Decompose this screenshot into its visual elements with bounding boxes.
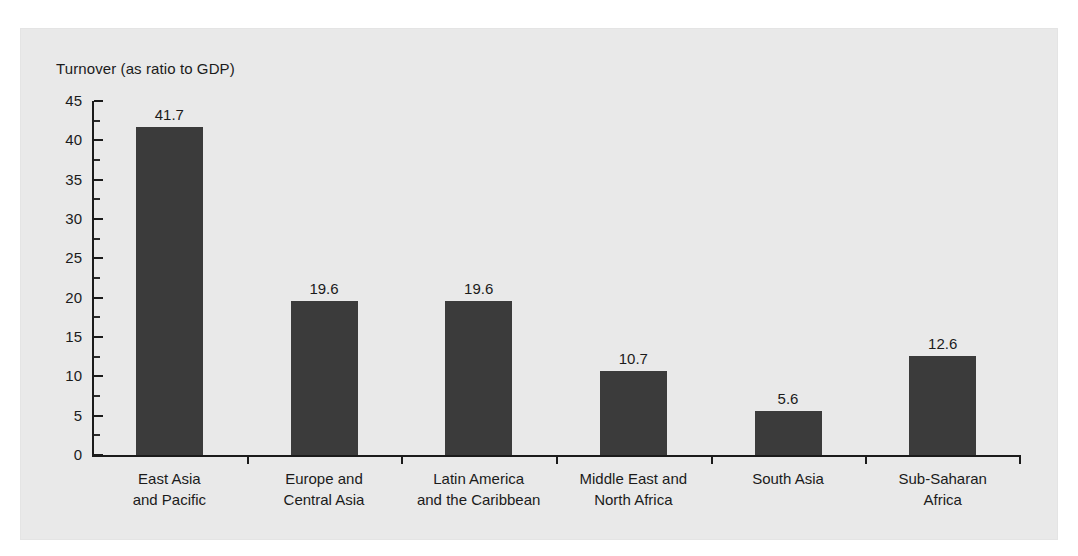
bar (136, 127, 203, 455)
chart-figure: Turnover (as ratio to GDP) 4540353025201… (0, 0, 1078, 556)
bar-value-label: 10.7 (593, 350, 673, 367)
y-tick-0 (94, 454, 103, 456)
bar (909, 356, 976, 455)
bar-value-label: 41.7 (129, 106, 209, 123)
category-label: Sub-SaharanAfrica (865, 468, 1020, 510)
bar-value-label: 5.6 (748, 390, 828, 407)
y-tick-label-35: 35 (38, 171, 82, 188)
category-label-line: Middle East and (556, 468, 711, 489)
category-label: Latin Americaand the Caribbean (401, 468, 556, 510)
x-tick-end (1019, 455, 1021, 464)
y-tick-minor (94, 120, 100, 122)
y-tick-label-25: 25 (38, 249, 82, 266)
category-label-line: Africa (865, 489, 1020, 510)
y-tick-40 (94, 139, 103, 141)
bar (291, 301, 358, 455)
y-tick-label-20: 20 (38, 289, 82, 306)
y-tick-label-40: 40 (38, 131, 82, 148)
y-tick-minor (94, 238, 100, 240)
bar-value-label: 19.6 (439, 280, 519, 297)
bar (755, 411, 822, 455)
category-label-line: and the Caribbean (401, 489, 556, 510)
y-axis-title: Turnover (as ratio to GDP) (56, 60, 235, 77)
y-tick-15 (94, 336, 103, 338)
y-tick-20 (94, 297, 103, 299)
x-tick (401, 455, 403, 464)
bar-value-label: 19.6 (284, 280, 364, 297)
category-label-line: Sub-Saharan (865, 468, 1020, 489)
category-label: South Asia (711, 468, 866, 489)
category-label-line: Latin America (401, 468, 556, 489)
category-label: Middle East andNorth Africa (556, 468, 711, 510)
y-tick-minor (94, 356, 100, 358)
y-tick-10 (94, 375, 103, 377)
y-tick-35 (94, 179, 103, 181)
bar (445, 301, 512, 455)
x-tick (556, 455, 558, 464)
y-tick-label-0: 0 (38, 446, 82, 463)
y-tick-5 (94, 415, 103, 417)
y-tick-minor (94, 277, 100, 279)
y-tick-minor (94, 316, 100, 318)
bar-value-label: 12.6 (903, 335, 983, 352)
y-tick-minor (94, 395, 100, 397)
y-tick-45 (94, 100, 103, 102)
category-label-line: North Africa (556, 489, 711, 510)
y-tick-minor (94, 434, 100, 436)
x-tick (711, 455, 713, 464)
category-label: East Asiaand Pacific (92, 468, 247, 510)
y-tick-label-10: 10 (38, 367, 82, 384)
category-label-line: Europe and (247, 468, 402, 489)
y-tick-minor (94, 198, 100, 200)
y-tick-25 (94, 257, 103, 259)
x-tick (865, 455, 867, 464)
y-tick-minor (94, 159, 100, 161)
category-label: Europe andCentral Asia (247, 468, 402, 510)
y-tick-label-15: 15 (38, 328, 82, 345)
y-tick-label-30: 30 (38, 210, 82, 227)
category-label-line: East Asia (92, 468, 247, 489)
y-tick-label-45: 45 (38, 92, 82, 109)
category-label-line: Central Asia (247, 489, 402, 510)
category-label-line: South Asia (711, 468, 866, 489)
x-tick (247, 455, 249, 464)
y-tick-30 (94, 218, 103, 220)
y-tick-label-5: 5 (38, 407, 82, 424)
category-label-line: and Pacific (92, 489, 247, 510)
bar (600, 371, 667, 455)
